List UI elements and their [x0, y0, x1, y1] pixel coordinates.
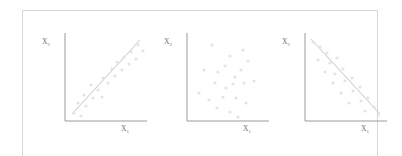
no-correlation-plot: X2 X1 — [163, 25, 273, 137]
panel-negative-trend-line — [311, 39, 380, 114]
panel-none-y-axis-label: X2 — [164, 38, 172, 46]
figure-frame: X2 X1 — [22, 10, 378, 156]
panel-none-x-axis-label: X1 — [243, 125, 251, 133]
panel-positive-x-axis-label: X1 — [121, 125, 129, 133]
positive-correlation-plot: X2 X1 — [41, 25, 151, 137]
panel-negative-y-axis-label: X2 — [282, 38, 290, 46]
panel-positive-canvas — [41, 25, 151, 137]
panel-negative-points — [311, 40, 379, 116]
panel-negative-canvas — [281, 25, 391, 137]
panel-none-points — [197, 43, 255, 118]
panel-positive-points — [72, 43, 144, 117]
panel-negative-x-axis-label: X1 — [361, 125, 369, 133]
negative-correlation-plot: X2 X1 — [281, 25, 391, 137]
panel-none-axes — [187, 33, 269, 121]
panel-positive-y-axis-label: X2 — [42, 38, 50, 46]
panel-none-canvas — [163, 25, 273, 137]
